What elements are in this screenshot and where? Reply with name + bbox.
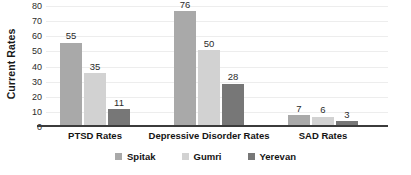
- legend-item[interactable]: Spitak: [115, 152, 156, 162]
- plot-area: 553511765028763: [46, 6, 388, 127]
- bar: 7: [288, 115, 310, 126]
- y-axis-tick-label: 40: [32, 62, 42, 71]
- bar-value-label: 76: [180, 0, 191, 9]
- x-axis-category-label: SAD Rates: [299, 131, 348, 141]
- bar: 28: [222, 84, 244, 126]
- y-axis-tick-label: 70: [32, 17, 42, 26]
- y-axis-tick-label: 30: [32, 77, 42, 86]
- legend-swatch-icon: [248, 153, 255, 160]
- y-axis-tick-label: 80: [32, 2, 42, 11]
- legend-swatch-icon: [182, 153, 189, 160]
- bar: 55: [60, 43, 82, 126]
- bar: 50: [198, 50, 220, 126]
- x-axis-line: [37, 125, 388, 127]
- bar-value-label: 50: [204, 39, 215, 49]
- y-axis-tick-label: 50: [32, 47, 42, 56]
- y-axis-tick-label: 20: [32, 92, 42, 101]
- legend-item[interactable]: Gumri: [182, 152, 222, 162]
- y-axis-title-text: Current Rates: [5, 29, 17, 100]
- x-axis-category-label: Depressive Disorder Rates: [149, 131, 270, 141]
- y-axis-title: Current Rates: [0, 0, 22, 128]
- x-axis-category-label: PTSD Rates: [68, 131, 122, 141]
- bar-value-label: 35: [90, 62, 101, 72]
- legend-label: Spitak: [127, 152, 156, 162]
- bar-value-label: 3: [344, 110, 349, 120]
- bar: 11: [108, 109, 130, 126]
- bar-value-label: 28: [228, 72, 239, 82]
- bar-value-label: 11: [114, 98, 124, 108]
- bars-layer: 553511765028763: [46, 6, 388, 126]
- legend-item[interactable]: Yerevan: [248, 152, 296, 162]
- bar: 35: [84, 73, 106, 126]
- bar-chart: Current Rates 01020304050607080 55351176…: [0, 0, 411, 175]
- y-axis-tick-label: 10: [32, 107, 42, 116]
- y-axis-tick-label: 0: [37, 123, 42, 132]
- y-axis-tick-label: 60: [32, 32, 42, 41]
- bar-value-label: 7: [296, 104, 301, 114]
- y-axis-tick-labels: 01020304050607080: [22, 6, 44, 127]
- bar-value-label: 6: [320, 105, 325, 115]
- legend-label: Gumri: [194, 152, 222, 162]
- legend: SpitakGumriYerevan: [0, 152, 411, 162]
- bar: 76: [174, 11, 196, 126]
- x-axis-category-labels: PTSD RatesDepressive Disorder RatesSAD R…: [46, 131, 388, 147]
- plot-frame: 01020304050607080 553511765028763: [22, 6, 411, 127]
- bar-value-label: 55: [66, 31, 77, 41]
- legend-label: Yerevan: [260, 152, 296, 162]
- legend-swatch-icon: [115, 153, 122, 160]
